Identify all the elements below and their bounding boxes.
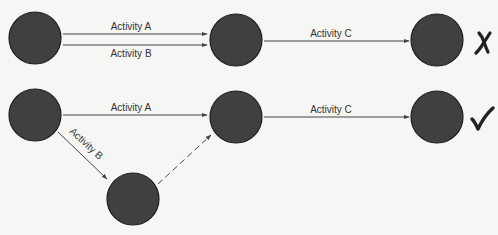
cross-icon: [476, 33, 490, 53]
top-network: Activity A Activity B Activity C: [9, 12, 490, 66]
check-icon: [472, 108, 493, 129]
bottom-network: Activity A Activity B Activity C: [9, 89, 493, 225]
top-label-activity-a: Activity A: [111, 21, 152, 32]
top-label-activity-c: Activity C: [310, 28, 352, 39]
bottom-edge-dummy: [158, 135, 211, 184]
diagram-canvas: Activity A Activity B Activity C Activit…: [0, 0, 498, 235]
top-node-1: [9, 12, 61, 64]
top-node-3: [411, 14, 463, 66]
activity-network-diagram: Activity A Activity B Activity C Activit…: [0, 0, 498, 235]
bottom-label-activity-c: Activity C: [310, 104, 352, 115]
bottom-node-3: [411, 91, 463, 143]
top-node-2: [210, 14, 262, 66]
bottom-node-4: [107, 173, 159, 225]
bottom-label-activity-b: Activity B: [68, 125, 106, 161]
top-label-activity-b: Activity B: [110, 48, 151, 59]
bottom-label-activity-a: Activity A: [111, 102, 152, 113]
bottom-node-2: [210, 91, 262, 143]
bottom-node-1: [9, 89, 61, 141]
